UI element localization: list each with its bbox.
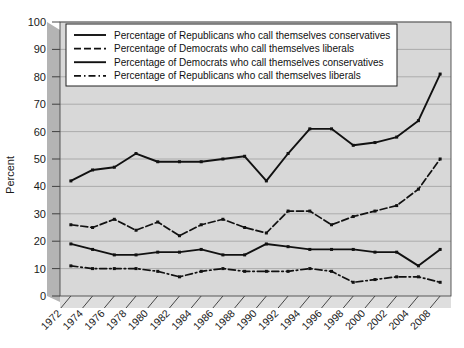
x-tick-label: 2000 xyxy=(342,307,367,332)
data-point-marker xyxy=(373,141,376,144)
data-point-marker xyxy=(308,267,311,270)
data-point-marker xyxy=(417,264,420,267)
legend-label: Percentage of Republicans who call thems… xyxy=(114,30,390,41)
data-point-marker xyxy=(243,270,246,273)
data-point-marker xyxy=(221,267,224,270)
data-point-marker xyxy=(178,251,181,254)
data-point-marker xyxy=(91,248,94,251)
x-tick-label: 1974 xyxy=(60,307,85,332)
data-point-marker xyxy=(352,144,355,147)
data-point-marker xyxy=(439,248,442,251)
data-point-marker xyxy=(135,253,138,256)
data-point-marker xyxy=(287,210,290,213)
data-point-marker xyxy=(243,155,246,158)
x-tick-label: 1986 xyxy=(190,307,215,332)
chart-figure: 0102030405060708090100 19721974197619781… xyxy=(0,0,464,348)
x-tick-label: 1980 xyxy=(125,307,150,332)
plot-floor xyxy=(60,296,451,308)
data-point-marker xyxy=(352,281,355,284)
data-point-marker xyxy=(91,226,94,229)
data-point-marker xyxy=(330,248,333,251)
y-tick-label: 10 xyxy=(34,263,46,275)
y-tick-label: 40 xyxy=(34,180,46,192)
data-point-marker xyxy=(265,270,268,273)
x-tick-label: 2004 xyxy=(386,307,411,332)
data-point-marker xyxy=(178,275,181,278)
data-point-marker xyxy=(200,160,203,163)
data-point-marker xyxy=(265,242,268,245)
plot-left-wall xyxy=(47,22,60,302)
data-point-marker xyxy=(178,234,181,237)
legend-label: Percentage of Republicans who call thems… xyxy=(114,70,361,81)
data-point-marker xyxy=(221,158,224,161)
legend-item-1[interactable]: Percentage of Democrats who call themsel… xyxy=(74,43,354,54)
data-point-marker xyxy=(330,127,333,130)
data-point-marker xyxy=(91,267,94,270)
data-point-marker xyxy=(395,275,398,278)
data-point-marker xyxy=(265,179,268,182)
y-tick-label: 60 xyxy=(34,126,46,138)
line-chart: 0102030405060708090100 19721974197619781… xyxy=(0,0,464,348)
y-tick-label: 30 xyxy=(34,208,46,220)
data-point-marker xyxy=(200,223,203,226)
data-point-marker xyxy=(439,281,442,284)
data-point-marker xyxy=(113,267,116,270)
x-tick-label: 1988 xyxy=(212,307,237,332)
y-axis-title: Percent xyxy=(4,156,16,194)
data-point-marker xyxy=(135,267,138,270)
y-tick-label: 100 xyxy=(28,16,46,28)
data-point-marker xyxy=(135,152,138,155)
data-point-marker xyxy=(373,251,376,254)
y-tick-label: 0 xyxy=(40,290,46,302)
x-tick-label: 1992 xyxy=(255,307,280,332)
data-point-marker xyxy=(265,231,268,234)
x-tick-label: 1976 xyxy=(82,307,107,332)
data-point-marker xyxy=(69,179,72,182)
x-tick-label: 1994 xyxy=(277,307,302,332)
x-tick-label: 1998 xyxy=(321,307,346,332)
data-point-marker xyxy=(330,270,333,273)
data-point-marker xyxy=(69,264,72,267)
data-point-marker xyxy=(417,188,420,191)
data-point-marker xyxy=(113,166,116,169)
legend-item-3[interactable]: Percentage of Republicans who call thems… xyxy=(74,70,361,81)
data-point-marker xyxy=(221,218,224,221)
data-point-marker xyxy=(287,245,290,248)
x-tick-label: 1984 xyxy=(169,307,194,332)
data-point-marker xyxy=(417,119,420,122)
x-tick-label: 1978 xyxy=(103,307,128,332)
y-tick-label: 90 xyxy=(34,43,46,55)
y-tick-label: 70 xyxy=(34,98,46,110)
legend-item-2[interactable]: Percentage of Democrats who call themsel… xyxy=(74,57,384,68)
data-point-marker xyxy=(221,253,224,256)
data-point-marker xyxy=(439,73,442,76)
data-point-marker xyxy=(200,270,203,273)
data-point-marker xyxy=(439,158,442,161)
x-tick-label: 1990 xyxy=(234,307,259,332)
data-point-marker xyxy=(69,242,72,245)
data-point-marker xyxy=(156,251,159,254)
data-point-marker xyxy=(135,229,138,232)
legend-label: Percentage of Democrats who call themsel… xyxy=(114,43,354,54)
data-point-marker xyxy=(395,251,398,254)
data-point-marker xyxy=(373,210,376,213)
y-tick-label: 50 xyxy=(34,153,46,165)
legend-item-0[interactable]: Percentage of Republicans who call thems… xyxy=(74,30,390,41)
x-tick-label: 1982 xyxy=(147,307,172,332)
data-point-marker xyxy=(156,160,159,163)
data-point-marker xyxy=(287,152,290,155)
data-point-marker xyxy=(113,218,116,221)
chart-legend: Percentage of Republicans who call thems… xyxy=(66,24,397,86)
data-point-marker xyxy=(395,136,398,139)
y-tick-label: 20 xyxy=(34,235,46,247)
legend-label: Percentage of Democrats who call themsel… xyxy=(114,57,384,68)
data-point-marker xyxy=(156,270,159,273)
data-point-marker xyxy=(308,127,311,130)
data-point-marker xyxy=(69,223,72,226)
x-tick-label: 1972 xyxy=(38,307,63,332)
data-point-marker xyxy=(243,253,246,256)
data-point-marker xyxy=(373,278,376,281)
data-point-marker xyxy=(243,226,246,229)
data-point-marker xyxy=(417,275,420,278)
data-point-marker xyxy=(287,270,290,273)
